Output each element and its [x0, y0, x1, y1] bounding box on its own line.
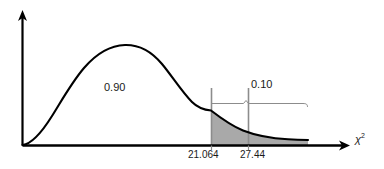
chi-square-distribution-figure: 0.90 0.10 21.064 27.44 χ2	[0, 0, 384, 169]
tail-bracket	[212, 101, 308, 108]
critical-value-label-1: 21.064	[188, 150, 219, 160]
x-axis-title-exponent: 2	[361, 132, 365, 139]
x-axis-title: χ2	[355, 132, 365, 145]
density-curve	[23, 45, 309, 145]
area-probability-label-tail: 0.10	[251, 79, 272, 90]
distribution-plot	[0, 0, 384, 169]
area-probability-label-main: 0.90	[104, 82, 125, 93]
critical-value-label-2: 27.44	[240, 150, 265, 160]
